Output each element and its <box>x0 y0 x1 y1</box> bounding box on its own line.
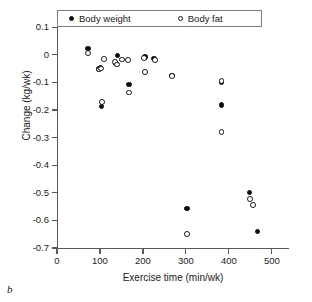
data-point-body-fat <box>247 196 253 202</box>
data-point-body-fat <box>99 99 105 105</box>
data-point-body-fat <box>250 202 256 208</box>
data-point-body-weight <box>247 190 252 195</box>
data-point-body-fat <box>125 57 131 63</box>
data-point-body-fat <box>119 57 125 63</box>
panel-letter: b <box>7 283 13 295</box>
data-point-body-fat <box>219 78 225 84</box>
x-tick-mark <box>228 249 229 254</box>
data-point-body-fat <box>142 69 148 75</box>
data-point-body-fat <box>101 56 107 62</box>
data-point-body-fat <box>184 231 190 237</box>
data-point-body-fat <box>219 129 225 135</box>
x-tick-label: 400 <box>209 256 249 266</box>
x-tick-label: 200 <box>123 256 163 266</box>
y-tick-label: -0.5 <box>9 188 49 198</box>
data-point-body-fat <box>85 50 91 56</box>
data-point-body-fat <box>141 55 147 61</box>
data-point-body-weight <box>184 206 189 211</box>
legend-entry-body-fat: Body fat <box>178 13 223 24</box>
y-tick-label: -0.7 <box>9 243 49 253</box>
y-tick-label: 0.1 <box>9 22 49 32</box>
x-tick-mark <box>99 249 100 254</box>
data-point-body-fat <box>114 62 120 68</box>
data-point-body-weight <box>126 82 131 87</box>
x-tick-mark <box>142 249 143 254</box>
legend-label-body-weight: Body weight <box>79 13 131 24</box>
x-tick-label: 0 <box>37 256 77 266</box>
x-axis-title: Exercise time (min/wk) <box>57 272 289 283</box>
data-point-body-fat <box>152 57 158 63</box>
data-point-body-fat <box>169 73 175 79</box>
legend-label-body-fat: Body fat <box>188 13 223 24</box>
legend-entry-body-weight: Body weight <box>69 13 131 24</box>
x-tick-label: 100 <box>80 256 120 266</box>
plot-area <box>57 12 289 248</box>
x-tick-mark <box>185 249 186 254</box>
figure-panel-b: 0.10-0.1-0.2-0.3-0.4-0.5-0.6-0.701002003… <box>0 0 312 302</box>
data-point-body-fat <box>126 90 132 96</box>
data-point-body-weight <box>255 229 260 234</box>
data-point-body-weight <box>219 102 224 107</box>
x-tick-mark <box>56 249 57 254</box>
x-tick-label: 300 <box>166 256 206 266</box>
y-axis-title: Change (kg/wk) <box>21 36 32 176</box>
x-tick-mark <box>271 249 272 254</box>
y-tick-label: -0.6 <box>9 215 49 225</box>
data-point-body-fat <box>98 66 104 72</box>
filled-circle-icon <box>69 16 74 21</box>
x-tick-label: 500 <box>252 256 292 266</box>
open-circle-icon <box>178 16 183 21</box>
chart-legend: Body weight Body fat <box>57 10 262 27</box>
